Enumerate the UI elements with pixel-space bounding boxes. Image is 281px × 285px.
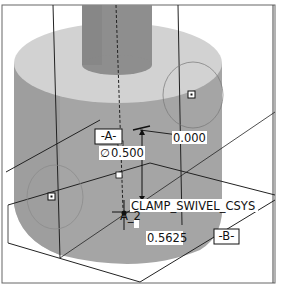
- svg-text:0.000: 0.000: [173, 131, 206, 145]
- model-canvas[interactable]: -A- 0.000 ∅ 0.500 CLAMP_SWIVEL_CSYS A_2 …: [0, 0, 281, 285]
- datum-point-icon[interactable]: [188, 91, 195, 98]
- datum-a-label[interactable]: -A-: [95, 129, 122, 144]
- diameter-label[interactable]: ∅ 0.500: [99, 146, 145, 160]
- svg-text:-A-: -A-: [101, 129, 117, 143]
- model-viewport[interactable]: -A- 0.000 ∅ 0.500 CLAMP_SWIVEL_CSYS A_2 …: [0, 0, 281, 285]
- datum-point-icon[interactable]: [48, 193, 55, 200]
- svg-text:CLAMP_SWIVEL_CSYS: CLAMP_SWIVEL_CSYS: [131, 199, 255, 213]
- axis-label[interactable]: A_2: [120, 209, 141, 223]
- datum-b-label[interactable]: -B-: [214, 229, 239, 244]
- axis-marker: [116, 172, 122, 178]
- svg-text:0.5625: 0.5625: [147, 231, 187, 245]
- dimension-bottom-label[interactable]: 0.5625: [146, 231, 187, 245]
- svg-text:0.500: 0.500: [111, 146, 144, 160]
- dimension-top-label[interactable]: 0.000: [172, 131, 207, 145]
- svg-text:A_2: A_2: [120, 209, 141, 223]
- svg-text:∅: ∅: [100, 146, 110, 160]
- csys-name-label[interactable]: CLAMP_SWIVEL_CSYS: [130, 199, 258, 213]
- svg-text:-B-: -B-: [219, 229, 235, 243]
